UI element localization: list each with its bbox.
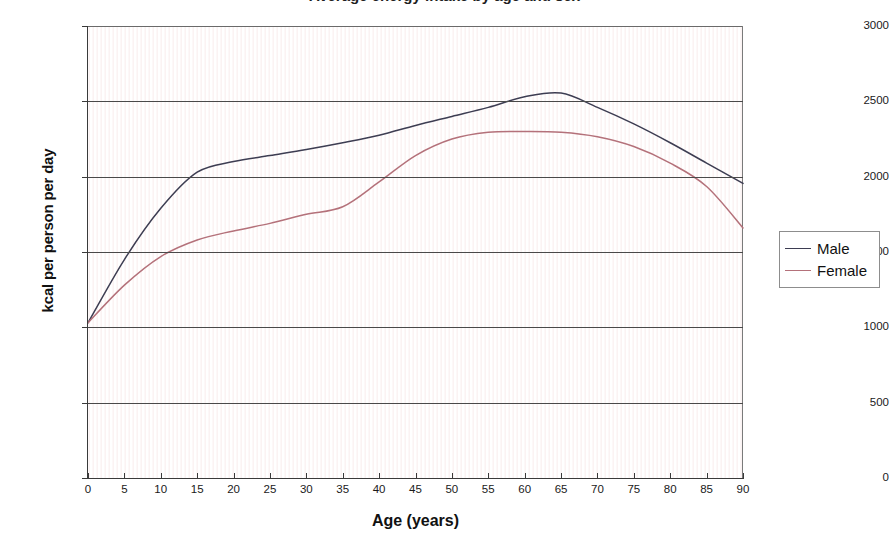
series-line-female: [88, 131, 743, 322]
gridline: [88, 327, 743, 328]
x-tick-mark: [270, 473, 271, 479]
x-tick-label: 45: [401, 484, 431, 496]
x-tick-mark: [743, 473, 744, 479]
x-tick-label: 85: [692, 484, 722, 496]
y-tick-mark: [82, 252, 88, 253]
x-axis-title: Age (years): [88, 512, 743, 530]
x-tick-label: 15: [182, 484, 212, 496]
x-tick-label: 65: [546, 484, 576, 496]
x-tick-label: 55: [473, 484, 503, 496]
x-tick-mark: [561, 473, 562, 479]
gridline: [88, 101, 743, 102]
x-tick-mark: [379, 473, 380, 479]
x-tick-label: 25: [255, 484, 285, 496]
x-tick-label: 70: [582, 484, 612, 496]
x-tick-label: 50: [437, 484, 467, 496]
x-tick-label: 90: [728, 484, 758, 496]
y-tick-label: 1000: [811, 321, 889, 333]
gridline: [88, 252, 743, 253]
gridline: [88, 177, 743, 178]
y-tick-label: 3000: [811, 20, 889, 32]
x-tick-label: 10: [146, 484, 176, 496]
x-tick-mark: [525, 473, 526, 479]
y-tick-label: 500: [811, 397, 889, 409]
x-tick-mark: [597, 473, 598, 479]
x-tick-mark: [124, 473, 125, 479]
y-axis-title: kcal per person per day: [39, 91, 56, 371]
plot-area: [88, 26, 743, 478]
x-tick-mark: [416, 473, 417, 479]
x-tick-mark: [488, 473, 489, 479]
x-tick-label: 80: [655, 484, 685, 496]
x-tick-mark: [161, 473, 162, 479]
y-tick-mark: [82, 26, 88, 27]
chart-title-clipped: Average energy intake by age and sex: [0, 0, 889, 9]
x-tick-mark: [197, 473, 198, 479]
x-tick-mark: [670, 473, 671, 479]
y-tick-label: 2000: [811, 171, 889, 183]
chart-legend: MaleFemale: [779, 231, 880, 288]
series-line-male: [88, 93, 743, 323]
x-tick-mark: [343, 473, 344, 479]
y-tick-label: 2500: [811, 95, 889, 107]
legend-label: Female: [817, 263, 867, 278]
x-tick-mark: [88, 473, 89, 479]
legend-label: Male: [817, 241, 850, 256]
y-tick-label: 0: [811, 472, 889, 484]
x-tick-label: 0: [73, 484, 103, 496]
x-tick-mark: [306, 473, 307, 479]
x-tick-mark: [634, 473, 635, 479]
x-tick-label: 30: [291, 484, 321, 496]
chart-title: Average energy intake by age and sex: [0, 0, 889, 4]
x-tick-label: 20: [219, 484, 249, 496]
y-tick-mark: [82, 403, 88, 404]
legend-item-female[interactable]: Female: [780, 259, 879, 281]
x-tick-mark: [707, 473, 708, 479]
y-tick-mark: [82, 327, 88, 328]
x-tick-mark: [234, 473, 235, 479]
gridline: [88, 403, 743, 404]
x-tick-label: 60: [510, 484, 540, 496]
y-tick-mark: [82, 177, 88, 178]
x-tick-mark: [452, 473, 453, 479]
x-tick-label: 5: [109, 484, 139, 496]
y-tick-mark: [82, 101, 88, 102]
legend-swatch-female: [785, 270, 811, 271]
chart-figure: Average energy intake by age and sex kca…: [0, 0, 889, 552]
x-tick-label: 35: [328, 484, 358, 496]
x-tick-label: 75: [619, 484, 649, 496]
legend-swatch-male: [785, 248, 811, 249]
legend-item-male[interactable]: Male: [780, 237, 879, 259]
x-tick-label: 40: [364, 484, 394, 496]
